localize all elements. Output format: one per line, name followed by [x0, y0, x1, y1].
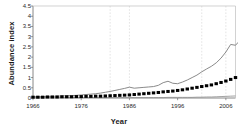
data-marker	[234, 76, 237, 79]
data-marker	[219, 81, 222, 84]
data-marker	[41, 96, 44, 99]
data-marker	[36, 96, 39, 99]
data-marker	[89, 95, 92, 98]
data-marker	[224, 80, 227, 83]
data-marker	[108, 94, 111, 97]
chart-svg	[0, 0, 238, 129]
data-marker	[104, 94, 107, 97]
data-marker	[176, 89, 179, 92]
data-marker	[157, 91, 160, 94]
data-marker	[46, 95, 49, 98]
data-marker	[123, 94, 126, 97]
axes	[31, 6, 236, 100]
data-marker	[137, 93, 140, 96]
series-thin-line-upper	[33, 10, 238, 97]
data-marker	[147, 92, 150, 95]
data-marker	[205, 84, 208, 87]
data-marker	[94, 95, 97, 98]
series-dotted-markers	[31, 76, 237, 99]
data-marker	[215, 82, 218, 85]
data-marker	[166, 90, 169, 93]
data-marker	[84, 95, 87, 98]
data-marker	[200, 85, 203, 88]
data-marker	[181, 88, 184, 91]
data-marker	[118, 94, 121, 97]
data-marker	[128, 93, 131, 96]
data-marker	[51, 95, 54, 98]
data-marker	[186, 88, 189, 91]
plot-area	[0, 0, 238, 129]
data-marker	[190, 87, 193, 90]
data-marker	[99, 95, 102, 98]
data-marker	[70, 95, 73, 98]
data-marker	[113, 94, 116, 97]
data-marker	[60, 95, 63, 98]
data-marker	[133, 93, 136, 96]
data-marker	[161, 90, 164, 93]
data-marker	[31, 96, 34, 99]
data-marker	[75, 95, 78, 98]
data-marker	[152, 91, 155, 94]
data-marker	[210, 83, 213, 86]
data-marker	[65, 95, 68, 98]
data-marker	[55, 95, 58, 98]
gridlines	[110, 6, 226, 98]
data-marker	[80, 95, 83, 98]
data-marker	[195, 86, 198, 89]
data-marker	[142, 92, 145, 95]
data-marker	[171, 90, 174, 93]
abundance-index-chart: Abundance index Year 00.511.522.533.544.…	[0, 0, 238, 129]
data-marker	[229, 78, 232, 81]
